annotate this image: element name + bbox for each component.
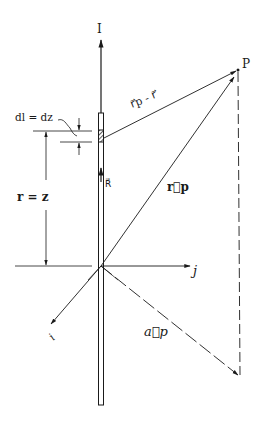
r-equals-z-label: r = z (17, 190, 49, 204)
rp-minus-r-vector (104, 71, 236, 138)
i-axis-label: i (46, 331, 58, 343)
point-P (237, 69, 240, 72)
ap-label: a⃗p (144, 324, 169, 339)
j-axis-label: j (190, 263, 197, 278)
current-label: I (97, 22, 102, 36)
ap-vector (101, 266, 238, 375)
point-P-label: P (242, 57, 250, 71)
rp-minus-r-label: r⃗p - r⃗ (128, 88, 160, 111)
diagram-canvas: I dl = dz r = z R⃗ r⃗p - r⃗ r⃗p P j i a⃗… (0, 0, 264, 427)
R-label: R⃗ (105, 178, 111, 189)
i-axis (51, 266, 101, 324)
dl-leader (58, 120, 77, 136)
P-projection-line (238, 72, 240, 375)
rp-label: r⃗p (167, 180, 189, 194)
element-label: dl = dz (15, 111, 53, 123)
wire (99, 113, 104, 405)
current-element-dl (99, 130, 104, 142)
